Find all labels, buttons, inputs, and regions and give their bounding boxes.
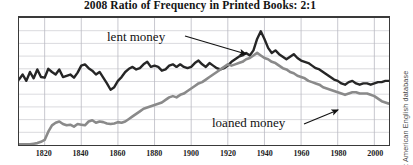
x-axis-tick-1980: 1980 [330,149,346,158]
source-credit-text: Google Ngram: American English database [402,71,411,165]
x-axis-tick-1900: 1900 [183,149,199,158]
plot-area [18,16,390,146]
x-axis-tick-1920: 1920 [220,149,236,158]
x-axis-tick-1840: 1840 [73,149,89,158]
x-axis-tick-1960: 1960 [294,149,310,158]
x-axis-tick-1820: 1820 [36,149,52,158]
x-axis-tick-1940: 1940 [257,149,273,158]
page-title: 2008 Ratio of Frequency in Printed Books… [0,0,400,11]
annotation-label-lent-money: lent money [107,29,165,45]
annotation-label-loaned-money: loaned money [212,115,285,131]
x-axis-tick-1860: 1860 [109,149,125,158]
x-axis-tick-1880: 1880 [146,149,162,158]
source-credit: Google Ngram: American English database [400,17,412,147]
x-axis-tick-2000: 2000 [367,149,383,158]
chart-series-layer [19,18,389,145]
chart-figure: 2008 Ratio of Frequency in Printed Books… [0,0,413,165]
